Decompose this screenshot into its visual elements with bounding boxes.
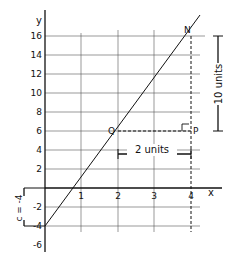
svg-text:1: 1	[78, 191, 84, 201]
svg-text:6: 6	[36, 126, 42, 136]
point-label-q: Q	[108, 126, 115, 136]
svg-text:4: 4	[188, 191, 194, 201]
line-series	[45, 15, 200, 226]
svg-text:16: 16	[31, 31, 43, 41]
svg-text:12: 12	[31, 69, 42, 79]
horizontal-annotation: 2 units	[135, 144, 169, 155]
intercept-annotation: c = -4	[14, 194, 24, 221]
svg-text:-4: -4	[33, 221, 42, 231]
svg-text:3: 3	[151, 191, 157, 201]
right-angle-marker	[182, 124, 189, 131]
svg-text:-2: -2	[33, 202, 42, 212]
y-tick-labels: 16 14 12 10 8 6 4 2 -2 -4 -6	[31, 31, 43, 250]
point-label-n: N	[184, 25, 191, 35]
svg-text:-6: -6	[33, 240, 42, 250]
gradient-diagram: 10 units 2 units c = -4 y x 16 14 12 10 …	[0, 0, 233, 263]
svg-text:8: 8	[36, 107, 42, 117]
svg-text:14: 14	[31, 50, 43, 60]
x-tick-labels: 1 2 3 4	[78, 191, 194, 201]
point-label-p: P	[193, 126, 199, 136]
svg-text:2: 2	[115, 191, 121, 201]
svg-text:2: 2	[36, 164, 42, 174]
svg-text:4: 4	[36, 145, 42, 155]
x-axis-label: x	[208, 187, 214, 198]
construction-lines	[118, 36, 191, 232]
y-axis-label: y	[36, 15, 42, 26]
svg-text:10: 10	[31, 88, 43, 98]
vertical-annotation: 10 units	[213, 64, 224, 105]
